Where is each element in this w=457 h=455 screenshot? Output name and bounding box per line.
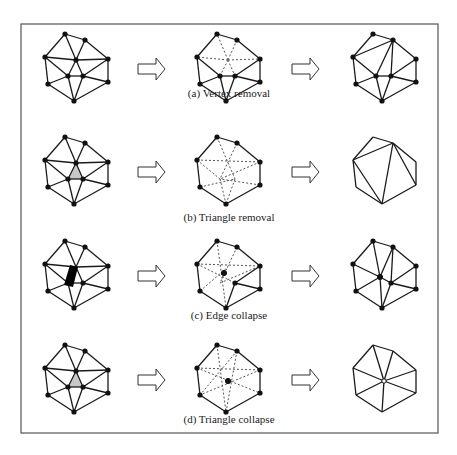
mesh-edge xyxy=(45,160,76,163)
mesh-edge xyxy=(48,76,68,84)
mesh-vertex xyxy=(234,244,239,249)
mesh-vertex xyxy=(197,288,202,293)
mesh-vertex xyxy=(370,238,375,243)
mesh-edge xyxy=(391,40,393,76)
mesh-vertex xyxy=(232,73,237,78)
mesh-vertex xyxy=(257,390,262,395)
mesh-edge xyxy=(45,57,76,60)
mesh-edge xyxy=(382,185,416,204)
mesh-vertex xyxy=(223,201,228,206)
mesh-vertex xyxy=(353,81,358,86)
right-outline-arrow-icon xyxy=(292,369,319,391)
mesh-edge xyxy=(83,162,108,179)
dashed-edge xyxy=(228,60,235,76)
mesh-vertex xyxy=(257,56,262,61)
mesh-vertex xyxy=(413,263,418,268)
mesh-vertex xyxy=(62,238,67,243)
mesh-edge xyxy=(83,387,108,393)
caption-triangle-collapse: (d) Triangle collapse xyxy=(183,413,274,425)
caption-triangle-removal: (b) Triangle removal xyxy=(183,211,274,223)
mesh-edge xyxy=(65,137,76,163)
mesh-vertex xyxy=(71,98,76,103)
mesh-vertex xyxy=(257,79,262,84)
mesh-edge xyxy=(45,57,68,76)
mesh-vertex xyxy=(257,286,262,291)
mesh-vertex xyxy=(105,79,110,84)
right-outline-arrow-icon xyxy=(138,369,165,391)
mesh-vertex xyxy=(62,31,67,36)
mesh-vertex xyxy=(388,73,393,78)
mesh-edge xyxy=(83,370,108,387)
caption-edge-collapse: (c) Edge collapse xyxy=(191,309,267,321)
dashed-edge xyxy=(220,179,260,185)
dashed-edge xyxy=(228,59,260,60)
mesh-vertex xyxy=(257,182,262,187)
mesh-vertex xyxy=(379,305,384,310)
mesh-edge xyxy=(356,187,382,204)
mesh-vertex xyxy=(197,81,202,86)
mesh-edge xyxy=(45,368,48,395)
mesh-edge xyxy=(353,34,373,57)
mesh-vertex xyxy=(413,286,418,291)
mesh-edge xyxy=(356,277,380,291)
mesh-edge xyxy=(197,57,200,84)
mesh-edge xyxy=(76,351,85,371)
mesh-vertex xyxy=(105,286,110,291)
mesh-edge xyxy=(217,34,237,40)
mesh-vertex xyxy=(82,140,87,145)
mesh-edge xyxy=(353,137,373,160)
mesh-edge xyxy=(76,40,85,60)
mesh-vertex xyxy=(197,392,202,397)
mesh-edge xyxy=(391,266,416,283)
mesh-edge xyxy=(353,241,373,264)
mesh-edge xyxy=(353,368,356,395)
mesh-edge xyxy=(197,368,200,395)
mesh-edge xyxy=(76,60,83,76)
mesh-edge xyxy=(382,82,416,101)
mesh-vertex xyxy=(65,176,70,181)
mesh-edge xyxy=(83,266,108,283)
mesh-vertex xyxy=(105,159,110,164)
mesh-edge xyxy=(373,137,393,143)
dashed-edge xyxy=(197,160,220,179)
mesh-edge xyxy=(380,277,382,308)
mesh-vertex xyxy=(194,157,199,162)
mesh-vertex xyxy=(62,134,67,139)
mesh-edge xyxy=(85,40,108,59)
mesh-vertex xyxy=(105,182,110,187)
mesh-edge xyxy=(373,345,384,381)
mesh-vertex xyxy=(194,261,199,266)
mesh-edge xyxy=(353,57,356,84)
mesh-edge xyxy=(353,264,380,277)
mesh-edge xyxy=(197,57,220,76)
dashed-edge xyxy=(220,162,260,179)
mesh-edge xyxy=(237,351,260,370)
mesh-vertex xyxy=(73,368,78,373)
mesh-vertex xyxy=(388,280,393,285)
mesh-edge xyxy=(45,137,65,160)
mesh-edge xyxy=(373,345,393,351)
mesh-vertex xyxy=(62,342,67,347)
mesh-edge xyxy=(235,283,260,289)
mesh-edge xyxy=(382,289,416,308)
mesh-vertex xyxy=(105,263,110,268)
mesh-edge xyxy=(356,291,382,308)
caption-vertex-removal: (a) Vertex removal xyxy=(188,87,270,99)
mesh-edge xyxy=(65,34,76,60)
mesh-edge xyxy=(197,34,217,57)
mesh-vertex xyxy=(370,31,375,36)
mesh-edge xyxy=(83,76,108,82)
mesh-vertex xyxy=(65,73,70,78)
mesh-edge xyxy=(353,345,373,368)
mesh-edge xyxy=(217,137,237,143)
mesh-edge xyxy=(76,370,108,371)
mesh-vertex xyxy=(234,37,239,42)
mesh-edge xyxy=(391,59,416,76)
mesh-edge xyxy=(353,40,393,57)
mesh-edge xyxy=(76,59,108,60)
mesh-vertex xyxy=(194,54,199,59)
mesh-vertex xyxy=(82,37,87,42)
mesh-vertex xyxy=(71,201,76,206)
mesh-edge xyxy=(45,160,68,179)
mesh-edge xyxy=(76,143,85,163)
